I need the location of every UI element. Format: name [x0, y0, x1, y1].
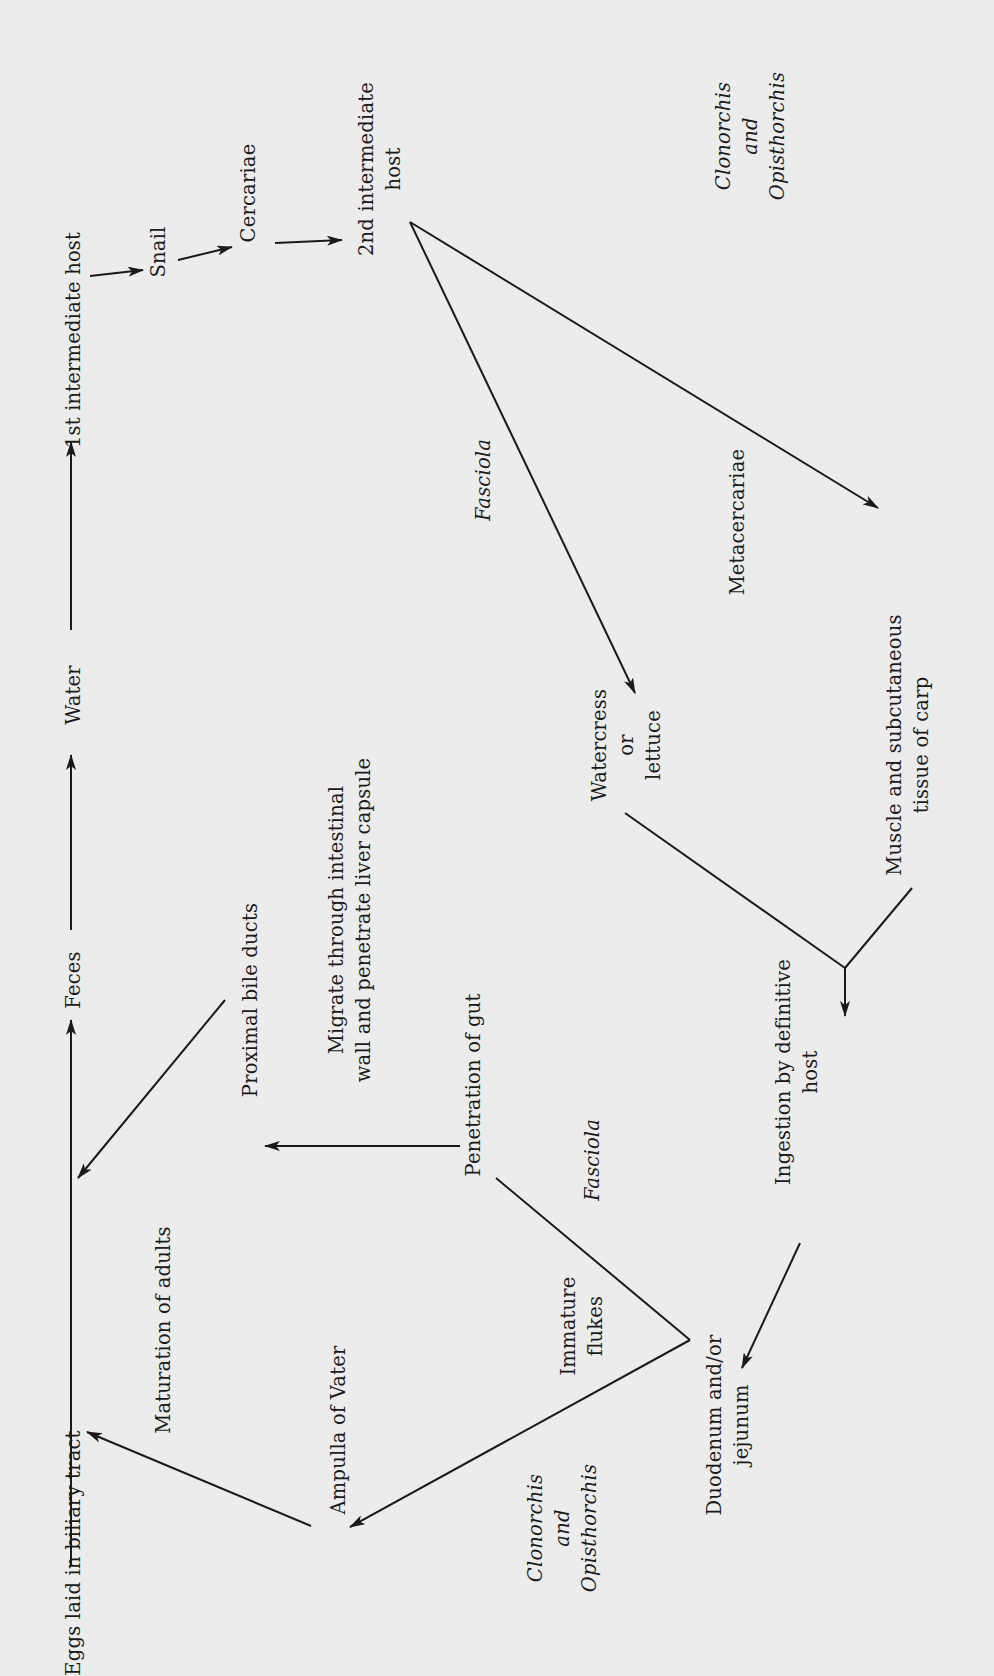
arrow-snail-to-cercariae — [178, 247, 232, 260]
node-ampulla: Ampulla of Vater — [325, 1346, 352, 1515]
node-clon-opist-bottom: ClonorchisandOpisthorchis — [522, 1464, 603, 1592]
node-proximal: Proximal bile ducts — [237, 903, 264, 1097]
node-label-line: Water — [60, 665, 87, 725]
node-label-line: lettuce — [640, 689, 667, 801]
node-label-line: Clonorchis — [522, 1464, 549, 1592]
node-snail: Snail — [145, 226, 172, 277]
arrow-first-host-to-snail — [90, 270, 143, 276]
arrow-second-host-to-watercress — [410, 222, 635, 693]
arrow-proximal-to-eggs — [78, 1000, 225, 1178]
node-label-line: Migrate through intestinal — [323, 758, 350, 1083]
node-migrate: Migrate through intestinalwall and penet… — [323, 758, 377, 1083]
node-label-line: Clonorchis — [710, 72, 737, 200]
node-label-line: Metacercariae — [724, 449, 751, 596]
node-water: Water — [60, 665, 87, 725]
node-label-line: Maturation of adults — [150, 1226, 177, 1433]
node-ingestion: Ingestion by definitivehost — [770, 959, 824, 1185]
node-label-line: jejunum — [728, 1334, 755, 1515]
node-label-line: host — [380, 82, 407, 256]
line-muscle-to-merge — [845, 888, 912, 968]
node-label-line: Snail — [145, 226, 172, 277]
line-watercress-to-merge — [625, 813, 845, 968]
node-label-line: 1st intermediate host — [60, 232, 87, 448]
node-label-line: Cercariae — [235, 144, 262, 243]
node-label-line: 2nd intermediate — [353, 82, 380, 256]
node-cercariae: Cercariae — [235, 144, 262, 243]
node-label-line: Eggs laid in biliary tract — [60, 1430, 87, 1675]
node-label-line: flukes — [582, 1276, 609, 1375]
node-label-line: Watercress — [586, 689, 613, 801]
node-label-line: Proximal bile ducts — [237, 903, 264, 1097]
arrow-duodenum-to-ampulla — [350, 1340, 690, 1527]
node-clon-opist-top: ClonorchisandOpisthorchis — [710, 72, 791, 200]
node-label-line: Immature — [555, 1276, 582, 1375]
node-label-line: Penetration of gut — [460, 994, 487, 1177]
node-metacercariae: Metacercariae — [724, 449, 751, 596]
node-watercress: Watercressorlettuce — [586, 689, 667, 801]
node-label-line: Ingestion by definitive — [770, 959, 797, 1185]
node-duodenum: Duodenum and/orjejunum — [701, 1334, 755, 1515]
node-label-line: Duodenum and/or — [701, 1334, 728, 1515]
node-eggs: Eggs laid in biliary tract — [60, 1430, 87, 1675]
node-label-line: Feces — [60, 951, 87, 1008]
node-muscle: Muscle and subcutaneoustissue of carp — [881, 614, 935, 875]
node-maturation: Maturation of adults — [150, 1226, 177, 1433]
node-label-line: wall and penetrate liver capsule — [350, 758, 377, 1083]
arrow-cercariae-to-second-host — [275, 240, 342, 243]
node-label-line: Opisthorchis — [764, 72, 791, 200]
node-label-line: or — [613, 689, 640, 801]
node-feces: Feces — [60, 951, 87, 1008]
node-label-line: Opisthorchis — [576, 1464, 603, 1592]
node-fasciola-top: Fasciola — [470, 439, 497, 521]
node-penetration: Penetration of gut — [460, 994, 487, 1177]
node-label-line: and — [549, 1464, 576, 1592]
node-immature: Immatureflukes — [555, 1276, 609, 1375]
node-second-host: 2nd intermediatehost — [353, 82, 407, 256]
node-label-line: and — [737, 72, 764, 200]
node-label-line: Fasciola — [579, 1119, 606, 1201]
node-fasciola-bottom: Fasciola — [579, 1119, 606, 1201]
node-label-line: Muscle and subcutaneous — [881, 614, 908, 875]
arrow-ampulla-to-eggs — [87, 1432, 311, 1526]
node-label-line: host — [797, 959, 824, 1185]
node-first-host: 1st intermediate host — [60, 232, 87, 448]
node-label-line: tissue of carp — [908, 614, 935, 875]
node-label-line: Ampulla of Vater — [325, 1346, 352, 1515]
node-label-line: Fasciola — [470, 439, 497, 521]
